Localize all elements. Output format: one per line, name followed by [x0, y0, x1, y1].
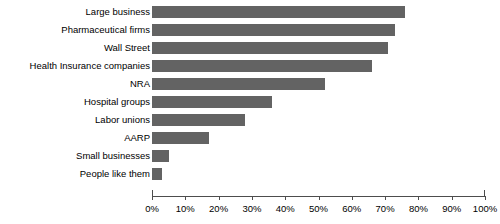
- bar-category-label: Wall Street: [0, 42, 150, 54]
- x-axis-tick: [219, 196, 220, 200]
- bar: [152, 42, 388, 54]
- bar-track: [152, 42, 485, 54]
- bar-row: People like them: [0, 168, 500, 186]
- bar-category-label: Hospital groups: [0, 96, 150, 108]
- bar: [152, 78, 325, 90]
- bar-category-label: People like them: [0, 168, 150, 180]
- bar-track: [152, 114, 485, 126]
- bar-row: Pharmaceutical firms: [0, 24, 500, 42]
- bar-row: NRA: [0, 78, 500, 96]
- bar-category-label: Large business: [0, 6, 150, 18]
- x-axis-tick: [319, 196, 320, 200]
- bar-track: [152, 132, 485, 144]
- bar-track: [152, 168, 485, 180]
- bar-track: [152, 60, 485, 72]
- bar: [152, 60, 372, 72]
- x-axis-tick: [352, 196, 353, 200]
- x-axis-tick: [418, 196, 419, 200]
- bar: [152, 168, 162, 180]
- bar-track: [152, 6, 485, 18]
- x-axis-tick: [485, 196, 486, 200]
- x-axis-tick: [252, 196, 253, 200]
- bar-row: Large business: [0, 6, 500, 24]
- bar-track: [152, 78, 485, 90]
- bar: [152, 114, 245, 126]
- bar-track: [152, 24, 485, 36]
- x-axis-tick: [185, 196, 186, 200]
- bar-category-label: Pharmaceutical firms: [0, 24, 150, 36]
- bar-chart: Large businessPharmaceutical firmsWall S…: [0, 0, 500, 224]
- bar-row: Small businesses: [0, 150, 500, 168]
- bar: [152, 96, 272, 108]
- bar-category-label: Small businesses: [0, 150, 150, 162]
- bar-category-label: AARP: [0, 132, 150, 144]
- bar-row: Hospital groups: [0, 96, 500, 114]
- bar-category-label: Health Insurance companies: [0, 60, 150, 72]
- x-axis-tick: [285, 196, 286, 200]
- bar-row: Labor unions: [0, 114, 500, 132]
- bar: [152, 150, 169, 162]
- x-axis-tick-label: 100%: [465, 203, 500, 214]
- bar-category-label: NRA: [0, 78, 150, 90]
- x-axis-tick: [452, 196, 453, 200]
- bar-track: [152, 96, 485, 108]
- x-axis-tick: [152, 196, 153, 200]
- x-axis-tick: [385, 196, 386, 200]
- bar: [152, 132, 209, 144]
- chart-plot-area: Large businessPharmaceutical firmsWall S…: [0, 6, 500, 186]
- bar: [152, 6, 405, 18]
- bar-row: AARP: [0, 132, 500, 150]
- bar-row: Wall Street: [0, 42, 500, 60]
- bar-category-label: Labor unions: [0, 114, 150, 126]
- bar-row: Health Insurance companies: [0, 60, 500, 78]
- bar: [152, 24, 395, 36]
- bar-track: [152, 150, 485, 162]
